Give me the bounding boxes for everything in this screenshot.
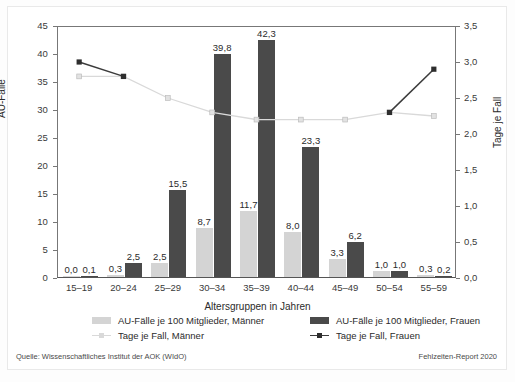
legend-swatch-women-icon bbox=[310, 317, 329, 324]
bar-women: 1,0 bbox=[391, 271, 408, 277]
bar-group: 3,36,2 bbox=[329, 27, 364, 277]
bar-value-label: 2,5 bbox=[153, 251, 167, 262]
legend-line-women-icon bbox=[310, 331, 329, 340]
legend-item-bar-women: AU-Fälle je 100 Mitglieder, Frauen bbox=[310, 315, 480, 326]
y-axis-right-tick-label: 0,0 bbox=[464, 272, 492, 283]
bar-value-label: 1,0 bbox=[375, 259, 389, 270]
y-axis-right-tick-mark bbox=[456, 170, 460, 171]
x-axis-tick-label: 25–29 bbox=[146, 282, 190, 293]
y-axis-right-label: Tage je Fall bbox=[492, 97, 503, 148]
bar-group: 1,01,0 bbox=[373, 27, 408, 277]
y-axis-left-tick-label: 30 bbox=[22, 104, 48, 115]
y-axis-right-tick-mark bbox=[456, 278, 460, 279]
bar-value-label: 3,3 bbox=[330, 247, 344, 258]
x-axis-label: Altersgruppen in Jahren bbox=[0, 301, 515, 312]
bar-group: 0,32,5 bbox=[107, 27, 142, 277]
y-axis-right-tick-mark bbox=[456, 98, 460, 99]
bar-value-label: 1,0 bbox=[393, 259, 407, 270]
y-axis-right-tick-mark bbox=[456, 206, 460, 207]
y-axis-right-tick-mark bbox=[456, 26, 460, 27]
bar-value-label: 0,1 bbox=[82, 264, 96, 275]
x-axis-tick-label: 40–44 bbox=[279, 282, 323, 293]
y-axis-right-tick-mark bbox=[456, 62, 460, 63]
bar-women: 15,5 bbox=[169, 190, 186, 277]
source-note: Quelle: Wissenschaftliches Institut der … bbox=[16, 352, 186, 361]
bar-men: 8,7 bbox=[196, 228, 213, 277]
bar-group: 2,515,5 bbox=[151, 27, 186, 277]
bar-value-label: 11,7 bbox=[239, 199, 257, 210]
bar-men: 0,0 bbox=[63, 276, 80, 277]
y-axis-right-tick-mark bbox=[456, 134, 460, 135]
bar-women: 42,3 bbox=[258, 40, 275, 277]
y-axis-right-tick-label: 0,5 bbox=[464, 236, 492, 247]
bar-value-label: 6,2 bbox=[348, 230, 362, 241]
bar-value-label: 8,7 bbox=[197, 216, 211, 227]
chart-figure: 454035302520151050 AU-Fälle 3,53,02,52,0… bbox=[0, 0, 515, 382]
bar-men: 2,5 bbox=[151, 263, 168, 277]
bar-men: 11,7 bbox=[240, 211, 257, 277]
bar-value-label: 0,3 bbox=[419, 263, 433, 274]
bar-men: 0,3 bbox=[417, 275, 434, 277]
x-axis-tick-label: 20–24 bbox=[102, 282, 146, 293]
legend-item-line-women: Tage je Fall, Frauen bbox=[310, 330, 420, 341]
bar-women: 0,2 bbox=[435, 276, 452, 277]
legend-row-lines: Tage je Fall, Männer Tage je Fall, Fraue… bbox=[92, 328, 492, 343]
x-axis-tick-label: 35–39 bbox=[235, 282, 279, 293]
bar-value-label: 42,3 bbox=[257, 28, 276, 39]
bar-men: 0,3 bbox=[107, 275, 124, 277]
x-axis-tick-label: 45–49 bbox=[323, 282, 367, 293]
legend-row-bars: AU-Fälle je 100 Mitglieder, Männer AU-Fä… bbox=[92, 313, 492, 328]
bar-women: 2,5 bbox=[125, 263, 142, 277]
bar-value-label: 15,5 bbox=[168, 178, 187, 189]
y-axis-left-tick-label: 20 bbox=[22, 160, 48, 171]
bar-women: 39,8 bbox=[214, 54, 231, 277]
y-axis-left-tick-label: 45 bbox=[22, 20, 48, 31]
bar-value-label: 39,8 bbox=[213, 42, 232, 53]
bar-group: 0,30,2 bbox=[417, 27, 452, 277]
bar-value-label: 0,2 bbox=[437, 264, 451, 275]
bar-value-label: 8,0 bbox=[286, 220, 300, 231]
bar-group: 0,00,1 bbox=[63, 27, 98, 277]
y-axis-right-tick-label: 2,0 bbox=[464, 128, 492, 139]
bar-men: 3,3 bbox=[329, 259, 346, 277]
bar-group: 8,023,3 bbox=[284, 27, 319, 277]
bar-value-label: 0,3 bbox=[109, 263, 123, 274]
bar-value-label: 0,0 bbox=[64, 264, 78, 275]
x-axis-tick-label: 55–59 bbox=[412, 282, 456, 293]
y-axis-left-tick-label: 40 bbox=[22, 48, 48, 59]
x-axis-tick-label: 15–19 bbox=[57, 282, 101, 293]
legend-label-bar-women: AU-Fälle je 100 Mitglieder, Frauen bbox=[336, 315, 480, 326]
y-axis-right-tick-label: 3,0 bbox=[464, 56, 492, 67]
bar-group: 8,739,8 bbox=[196, 27, 231, 277]
legend-item-bar-men: AU-Fälle je 100 Mitglieder, Männer bbox=[92, 315, 310, 326]
bar-value-label: 23,3 bbox=[301, 135, 320, 146]
y-axis-left-tick-label: 10 bbox=[22, 216, 48, 227]
y-axis-right-tick-label: 1,0 bbox=[464, 200, 492, 211]
y-axis-left-label: AU-Fälle bbox=[0, 79, 7, 118]
y-axis-left-tick-label: 35 bbox=[22, 76, 48, 87]
bar-women: 6,2 bbox=[347, 242, 364, 277]
plot-area: 0,00,10,32,52,515,58,739,811,742,38,023,… bbox=[57, 26, 456, 278]
x-axis-tick-label: 50–54 bbox=[368, 282, 412, 293]
legend-label-line-men: Tage je Fall, Männer bbox=[118, 330, 204, 341]
y-axis-right-tick-label: 2,5 bbox=[464, 92, 492, 103]
legend-label-line-women: Tage je Fall, Frauen bbox=[336, 330, 420, 341]
y-axis-right-tick-label: 1,5 bbox=[464, 164, 492, 175]
y-axis-right-tick-mark bbox=[456, 242, 460, 243]
legend-label-bar-men: AU-Fälle je 100 Mitglieder, Männer bbox=[118, 315, 264, 326]
bar-value-label: 2,5 bbox=[127, 251, 141, 262]
y-axis-right-tick-label: 3,5 bbox=[464, 20, 492, 31]
bar-men: 8,0 bbox=[284, 232, 301, 277]
bar-women: 23,3 bbox=[302, 147, 319, 277]
y-axis-left-tick-label: 5 bbox=[22, 244, 48, 255]
legend-line-men-icon bbox=[92, 331, 111, 340]
legend-item-line-men: Tage je Fall, Männer bbox=[92, 330, 310, 341]
y-axis-left-tick-label: 25 bbox=[22, 132, 48, 143]
y-axis-left-tick-label: 0 bbox=[22, 272, 48, 283]
report-note: Fehlzeiten-Report 2020 bbox=[419, 352, 497, 361]
chart-legend: AU-Fälle je 100 Mitglieder, Männer AU-Fä… bbox=[92, 313, 492, 343]
x-axis-tick-label: 30–34 bbox=[190, 282, 234, 293]
bar-group: 11,742,3 bbox=[240, 27, 275, 277]
bar-men: 1,0 bbox=[373, 271, 390, 277]
y-axis-left-tick-label: 15 bbox=[22, 188, 48, 199]
